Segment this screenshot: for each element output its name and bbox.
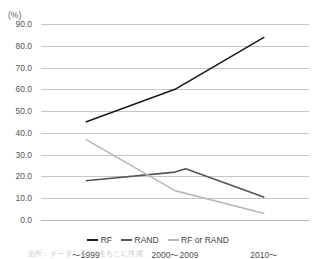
y-axis-tick-label: 70.0: [0, 63, 32, 73]
y-axis-tick-label: 50.0: [0, 106, 32, 116]
legend-swatch-icon: [87, 239, 98, 241]
y-axis-tick-label: 10.0: [0, 193, 32, 203]
chart-legend: RFRANDRF or RAND: [0, 236, 316, 245]
legend-swatch-icon: [168, 239, 179, 241]
series-lines: [41, 24, 309, 220]
legend-label: RF: [101, 236, 112, 245]
legend-label: RAND: [135, 236, 159, 245]
y-axis-tick-label: 60.0: [0, 84, 32, 94]
gridline: [41, 220, 309, 221]
x-axis-tick-label: 2010〜: [250, 248, 278, 259]
plot-area: 90.080.070.060.050.040.030.020.010.00.0 …: [41, 24, 309, 220]
y-axis-tick-label: 90.0: [0, 19, 32, 29]
series-line: [86, 139, 265, 213]
y-axis-tick-label: 30.0: [0, 150, 32, 160]
series-line: [86, 37, 265, 122]
y-axis-tick-label: 20.0: [0, 171, 32, 181]
y-axis-tick-label: 0.0: [0, 215, 32, 225]
legend-item[interactable]: RF or RAND: [168, 236, 229, 245]
legend-item[interactable]: RAND: [121, 236, 159, 245]
y-axis-tick-label: 40.0: [0, 128, 32, 138]
legend-label: RF or RAND: [181, 236, 229, 245]
source-note: 出所：データ：表7-1をもとに作成: [28, 248, 143, 258]
series-line: [86, 169, 265, 197]
cut-off-header-text: [0, 0, 316, 9]
legend-item[interactable]: RF: [87, 236, 112, 245]
chart-container: (%) 90.080.070.060.050.040.030.020.010.0…: [0, 0, 316, 259]
legend-swatch-icon: [121, 239, 132, 241]
x-axis-tick-label: 2000〜2009: [152, 248, 199, 259]
y-axis-tick-label: 80.0: [0, 41, 32, 51]
